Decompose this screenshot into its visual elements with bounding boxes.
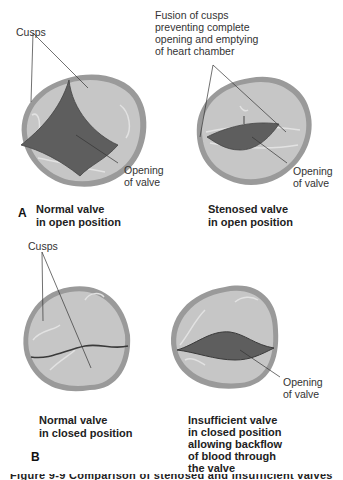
opening-label-normal-open-1: Opening <box>124 164 164 176</box>
panel-letter-b: B <box>31 450 40 464</box>
fusion-label-3: opening and emptying <box>155 33 258 45</box>
figure-caption-cutoff: Figure 9-9 Comparison of stenosed and in… <box>10 474 340 480</box>
caption-normal-closed-2: in closed position <box>39 427 133 440</box>
cusps-label-a: Cusps <box>16 26 46 38</box>
normal-valve-closed-illustration <box>23 252 130 391</box>
panel-letter-a: A <box>18 206 27 220</box>
caption-stenosed-1: Stenosed valve <box>208 203 288 216</box>
fusion-label-1: Fusion of cusps <box>155 9 229 21</box>
fusion-label-2: preventing complete <box>155 21 250 33</box>
caption-normal-open-2: in open position <box>36 216 121 229</box>
opening-label-insufficient-2: of valve <box>283 388 319 400</box>
cusps-label-b: Cusps <box>28 240 58 252</box>
caption-normal-closed-1: Normal valve <box>39 414 107 427</box>
insufficient-valve-closed-illustration <box>171 286 280 389</box>
caption-stenosed-2: in open position <box>208 216 293 229</box>
figure-caption-text: Figure 9-9 Comparison of stenosed and in… <box>10 474 340 480</box>
fusion-label-4: of heart chamber <box>155 45 234 57</box>
opening-label-insufficient-1: Opening <box>283 376 323 388</box>
opening-label-stenosed-1: Opening <box>293 165 333 177</box>
opening-label-stenosed-2: of valve <box>293 177 329 189</box>
opening-label-normal-open-2: of valve <box>124 176 160 188</box>
caption-normal-open-1: Normal valve <box>36 203 104 216</box>
